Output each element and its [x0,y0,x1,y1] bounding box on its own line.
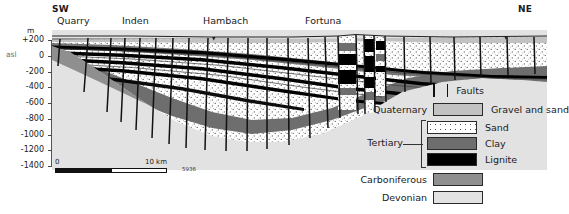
axis-tick-label: +200 [10,35,44,44]
scale-bar-dark-half [55,168,111,173]
axis-tick-label: -800 [10,114,44,123]
place-label-quarry: Quarry [57,15,90,26]
legend-swatch-gravel-and-sand [433,103,483,116]
axis-tick-label: -1400 [10,161,44,170]
scale-bar-light-half [111,168,167,173]
scale-start-label: 0 [55,158,59,166]
borehole-id-label: 5936 [182,166,196,172]
place-label-fortuna: Fortuna [305,15,341,26]
legend-row-lignite: Lignite [427,152,517,167]
place-label-inden: Inden [122,15,149,26]
axis-tick-label: -1000 [10,130,44,139]
legend-label-gravel-and-sand: Gravel and sand [483,104,569,115]
scale-bar: 0 10 km [55,158,167,180]
axis-unit-label: m [27,26,34,35]
legend-period-devonian: Devonian [333,192,433,203]
legend-row-devonian: Devonian [333,190,483,205]
legend-label-clay: Clay [477,138,506,149]
fault-symbol-icon [433,84,435,97]
axis-tick-label: -200 [10,67,44,76]
legend-row-clay: Clay [427,136,506,151]
axis-tick-label: -1200 [10,145,44,154]
scale-end-label: 10 km [145,158,167,166]
axis-tick-label: -600 [10,98,44,107]
legend-swatch-sand [427,121,477,134]
depth-axis: m asl +2000-200-400-600-800-1000-1200-14… [0,0,60,214]
tertiary-bracket-stem [403,144,423,145]
legend-label-faults: Faults [448,85,484,96]
legend-swatch-lignite [427,153,477,166]
legend-period-quaternary: Quaternary [333,104,433,115]
legend-row-carboniferous: Carboniferous [333,172,483,187]
legend-row-faults: Faults [433,84,484,97]
axis-tick-label: -400 [10,82,44,91]
legend-swatch-carboniferous [433,173,483,186]
legend-label-sand: Sand [477,122,509,133]
legend-swatch-devonian [433,191,483,204]
legend: Faults Quaternary Gravel and sand Tertia… [333,84,547,212]
legend-swatch-clay [427,137,477,150]
legend-period-tertiary: Tertiary [333,137,403,148]
legend-row-quaternary: Quaternary Gravel and sand [333,102,569,117]
direction-label-ne: NE [518,4,532,14]
legend-period-carboniferous: Carboniferous [333,174,433,185]
legend-label-lignite: Lignite [477,154,517,165]
place-label-hambach: Hambach [203,15,248,26]
legend-row-sand: Sand [427,120,509,135]
axis-tick-label: 0 [10,51,44,60]
